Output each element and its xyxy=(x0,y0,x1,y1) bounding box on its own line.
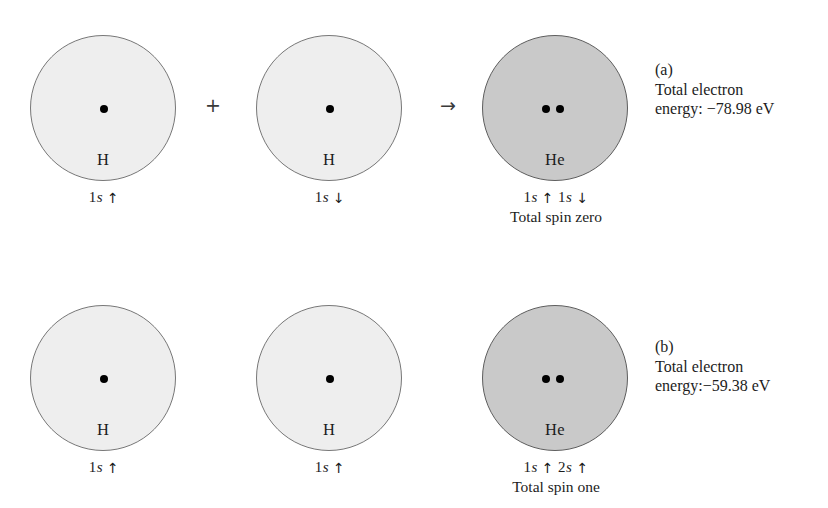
electron-shell-disc: H xyxy=(30,305,176,451)
atom-helium-b: He 1s ↑ 2s ↑ Total spin one xyxy=(482,305,630,451)
annotation-energy-value: energy:−59.38 eV xyxy=(655,376,770,396)
nucleus-dot xyxy=(100,105,108,113)
orbital-reaction-figure: H 1s ↑ + H 1s ↓ → He 1s ↑ 1s ↓ Total spi… xyxy=(0,0,828,508)
atom-caption: 1s ↓ xyxy=(230,187,430,207)
electron-shell-disc: H xyxy=(30,35,176,181)
electron-shell-disc: H xyxy=(256,305,402,451)
annotation-tag: (b) xyxy=(655,337,770,357)
electron-dot-second xyxy=(556,105,564,113)
atom-helium-a: He 1s ↑ 1s ↓ Total spin zero xyxy=(482,35,630,181)
annotation-line-1: Total electron xyxy=(655,80,774,100)
annotation-row-a: (a) Total electron energy: −78.98 eV xyxy=(655,60,774,119)
annotation-tag: (a) xyxy=(655,60,774,80)
atom-caption: 1s ↑ xyxy=(4,187,204,207)
electron-configuration: 1s ↑ xyxy=(230,457,430,477)
electron-shell-disc: He xyxy=(482,305,628,451)
electron-configuration: 1s ↑ xyxy=(4,187,204,207)
total-spin-label: Total spin zero xyxy=(456,207,656,227)
atom-hydrogen-b2: H 1s ↑ xyxy=(256,305,404,451)
atom-hydrogen-a1: H 1s ↑ xyxy=(30,35,178,181)
annotation-energy-value: energy: −78.98 eV xyxy=(655,99,774,119)
electron-shell-disc: He xyxy=(482,35,628,181)
electron-configuration: 1s ↓ xyxy=(230,187,430,207)
element-symbol: H xyxy=(257,420,401,440)
atom-caption: 1s ↑ xyxy=(4,457,204,477)
atom-caption: 1s ↑ xyxy=(230,457,430,477)
atom-hydrogen-b1: H 1s ↑ xyxy=(30,305,178,451)
total-spin-label: Total spin one xyxy=(456,477,656,497)
electron-shell-disc: H xyxy=(256,35,402,181)
electron-dot-second xyxy=(556,375,564,383)
element-symbol: He xyxy=(483,420,627,440)
annotation-row-b: (b) Total electron energy:−59.38 eV xyxy=(655,337,770,396)
atom-caption: 1s ↑ 1s ↓ Total spin zero xyxy=(456,187,656,227)
element-symbol: H xyxy=(257,150,401,170)
yields-arrow-row-a: → xyxy=(440,96,456,115)
nucleus-dot xyxy=(100,375,108,383)
annotation-line-1: Total electron xyxy=(655,357,770,377)
electron-configuration: 1s ↑ xyxy=(4,457,204,477)
atom-caption: 1s ↑ 2s ↑ Total spin one xyxy=(456,457,656,497)
electron-configuration: 1s ↑ 1s ↓ xyxy=(456,187,656,207)
nucleus-dot xyxy=(326,375,334,383)
plus-operator-row-a: + xyxy=(205,96,221,115)
element-symbol: He xyxy=(483,150,627,170)
element-symbol: H xyxy=(31,420,175,440)
atom-hydrogen-a2: H 1s ↓ xyxy=(256,35,404,181)
electron-dot-first xyxy=(542,105,550,113)
electron-dot-first xyxy=(542,375,550,383)
nucleus-dot xyxy=(326,105,334,113)
electron-configuration: 1s ↑ 2s ↑ xyxy=(456,457,656,477)
element-symbol: H xyxy=(31,150,175,170)
